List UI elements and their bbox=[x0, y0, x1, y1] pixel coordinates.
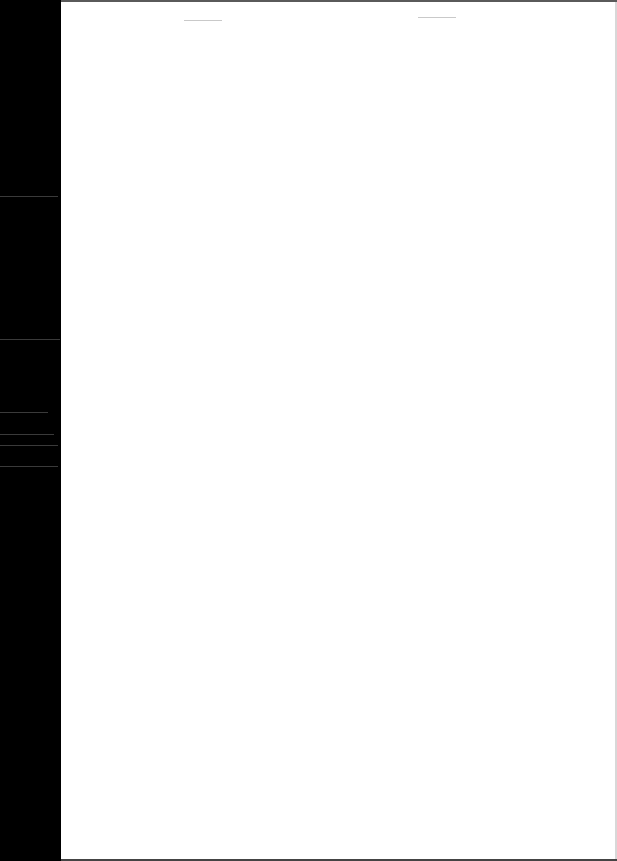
faint-mark bbox=[418, 17, 456, 18]
scan-streak bbox=[0, 339, 60, 340]
scan-streak bbox=[0, 445, 58, 446]
scan-streak bbox=[0, 196, 58, 197]
scan-streak bbox=[0, 466, 58, 467]
scanner-margin bbox=[0, 0, 62, 861]
blank-page bbox=[61, 0, 617, 861]
scan-streak bbox=[0, 412, 48, 413]
scan-streak bbox=[0, 434, 54, 435]
faint-mark bbox=[184, 20, 222, 21]
